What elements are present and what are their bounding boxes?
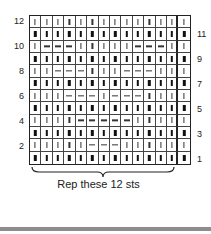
knit-symbol-icon <box>57 142 58 148</box>
knit-symbol-icon <box>126 19 127 25</box>
knit-stitch-cell <box>156 65 167 77</box>
knit-stitch-cell <box>99 127 110 139</box>
knit-symbol-icon <box>35 19 36 25</box>
knit-stitch-cell <box>41 65 52 77</box>
knit-stitch-cell <box>87 28 98 40</box>
knit-symbol-icon <box>171 31 173 37</box>
purl-symbol-icon <box>66 70 72 71</box>
knit-symbol-icon <box>34 80 36 86</box>
knit-symbol-icon <box>80 80 82 86</box>
knit-symbol-icon <box>183 105 185 111</box>
knit-symbol-icon <box>137 56 139 62</box>
purl-symbol-icon <box>89 144 95 145</box>
knit-symbol-icon <box>125 105 127 111</box>
knit-symbol-icon <box>148 56 150 62</box>
knit-symbol-icon <box>137 142 138 148</box>
chart-row-8 <box>30 65 190 77</box>
knit-stitch-cell <box>167 28 178 40</box>
knit-symbol-icon <box>34 105 36 111</box>
knit-stitch-cell <box>53 127 64 139</box>
knit-symbol-icon <box>57 93 58 99</box>
purl-symbol-icon <box>135 70 141 71</box>
knit-stitch-cell <box>156 16 167 28</box>
purl-stitch-cell <box>64 41 75 53</box>
knit-stitch-cell <box>53 90 64 102</box>
purl-stitch-cell <box>99 139 110 151</box>
knit-stitch-cell <box>30 41 41 53</box>
row-number-10: 10 <box>12 42 24 51</box>
knit-symbol-icon <box>184 43 185 49</box>
knit-symbol-icon <box>80 130 82 136</box>
knit-symbol-icon <box>114 80 116 86</box>
chart-row-4 <box>30 115 190 127</box>
knit-symbol-icon <box>149 93 150 99</box>
knit-stitch-cell <box>53 53 64 65</box>
knit-symbol-icon <box>57 80 59 86</box>
knit-symbol-icon <box>57 56 59 62</box>
knit-symbol-icon <box>45 155 47 161</box>
knit-symbol-icon <box>57 19 58 25</box>
knit-symbol-icon <box>160 93 161 99</box>
purl-stitch-cell <box>64 90 75 102</box>
knit-symbol-icon <box>137 80 139 86</box>
knit-symbol-icon <box>92 43 93 49</box>
knit-symbol-icon <box>184 142 185 148</box>
knit-stitch-cell <box>99 16 110 28</box>
knit-stitch-cell <box>178 102 189 114</box>
knit-stitch-cell <box>156 102 167 114</box>
knit-stitch-cell <box>144 53 155 65</box>
knit-symbol-icon <box>183 56 185 62</box>
knit-stitch-cell <box>133 78 144 90</box>
knit-stitch-cell <box>76 152 87 164</box>
knit-symbol-icon <box>80 43 81 49</box>
knit-symbol-icon <box>171 130 173 136</box>
knit-symbol-icon <box>46 68 47 74</box>
knit-stitch-cell <box>30 152 41 164</box>
knit-symbol-icon <box>80 56 82 62</box>
knit-symbol-icon <box>35 68 36 74</box>
knit-symbol-icon <box>160 56 162 62</box>
knit-symbol-icon <box>160 80 162 86</box>
knit-stitch-cell <box>53 78 64 90</box>
knit-stitch-cell <box>41 102 52 114</box>
knit-stitch-cell <box>121 53 132 65</box>
knit-symbol-icon <box>115 68 116 74</box>
knit-symbol-icon <box>103 155 105 161</box>
knit-stitch-cell <box>110 78 121 90</box>
purl-symbol-icon <box>78 95 84 96</box>
knit-stitch-cell <box>64 127 75 139</box>
knit-symbol-icon <box>148 105 150 111</box>
knit-symbol-icon <box>171 117 172 123</box>
knit-stitch-cell <box>178 53 189 65</box>
knit-stitch-cell <box>30 127 41 139</box>
knit-symbol-icon <box>125 80 127 86</box>
knit-stitch-cell <box>30 53 41 65</box>
purl-stitch-cell <box>156 41 167 53</box>
knit-symbol-icon <box>126 43 127 49</box>
knit-stitch-cell <box>30 28 41 40</box>
knit-stitch-cell <box>110 16 121 28</box>
knit-symbol-icon <box>57 31 59 37</box>
knit-symbol-icon <box>160 31 162 37</box>
knit-symbol-icon <box>183 80 185 86</box>
purl-symbol-icon <box>66 95 72 96</box>
knit-stitch-cell <box>156 115 167 127</box>
knit-symbol-icon <box>114 155 116 161</box>
knit-symbol-icon <box>35 142 36 148</box>
knit-stitch-cell <box>53 28 64 40</box>
knit-symbol-icon <box>80 142 81 148</box>
knit-symbol-icon <box>160 19 161 25</box>
purl-stitch-cell <box>110 139 121 151</box>
knit-symbol-icon <box>92 19 93 25</box>
knit-symbol-icon <box>46 19 47 25</box>
knit-symbol-icon <box>160 68 161 74</box>
knit-symbol-icon <box>125 155 127 161</box>
knit-symbol-icon <box>148 80 150 86</box>
row-number-1: 1 <box>197 155 202 164</box>
knit-stitch-cell <box>76 102 87 114</box>
purl-symbol-icon <box>146 46 152 47</box>
purl-symbol-icon <box>89 95 95 96</box>
row-number-12: 12 <box>12 17 24 26</box>
knit-symbol-icon <box>69 19 70 25</box>
knit-stitch-cell <box>110 28 121 40</box>
